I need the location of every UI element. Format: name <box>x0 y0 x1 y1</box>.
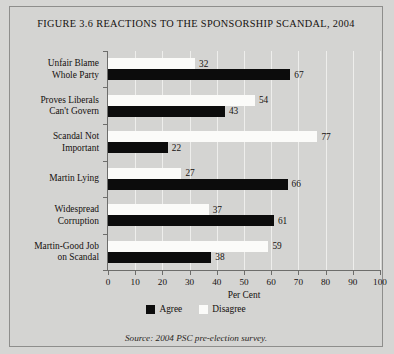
x-axis-tick <box>298 270 299 275</box>
x-axis-tick <box>353 270 354 275</box>
bar-value-label: 38 <box>215 252 224 262</box>
chart-plot-area: Unfair BlameWhole Party3267Proves Libera… <box>108 51 380 270</box>
bar-value-label: 32 <box>199 59 208 69</box>
bar-agree: 66 <box>108 179 288 190</box>
x-axis-tick-label: 60 <box>267 277 276 287</box>
bar-group: Martin Lying2766 <box>108 161 380 197</box>
legend-label: Agree <box>159 304 182 314</box>
bar-value-label: 37 <box>213 205 222 215</box>
bar-value-label: 43 <box>229 106 238 116</box>
bar-value-label: 67 <box>294 70 303 80</box>
category-label: Proves LiberalsCan't Govern <box>40 94 99 117</box>
x-axis-tick-label: 100 <box>373 277 387 287</box>
category-label: Martin-Good Jobon Scandal <box>34 240 99 263</box>
bar-disagree: 37 <box>108 204 209 215</box>
bar-value-label: 59 <box>272 241 281 251</box>
bar-disagree: 32 <box>108 58 195 69</box>
x-axis-tick <box>108 270 109 275</box>
legend-item-disagree: Disagree <box>199 304 245 314</box>
category-label: Martin Lying <box>49 173 99 184</box>
figure-frame: FIGURE 3.6 REACTIONS TO THE SPONSORSHIP … <box>9 6 383 347</box>
legend-label: Disagree <box>212 304 245 314</box>
legend-swatch-agree <box>146 305 155 314</box>
bar-value-label: 61 <box>278 216 287 226</box>
x-axis-tick <box>244 270 245 275</box>
x-axis-tick <box>326 270 327 275</box>
bar-disagree: 27 <box>108 168 181 179</box>
bar-group: WidespreadCorruption3761 <box>108 197 380 233</box>
bar-value-label: 54 <box>259 95 268 105</box>
x-axis-tick-label: 90 <box>348 277 357 287</box>
x-axis-tick <box>271 270 272 275</box>
x-axis-tick-label: 20 <box>158 277 167 287</box>
bar-agree: 38 <box>108 252 211 263</box>
x-axis-tick-label: 50 <box>239 277 248 287</box>
bar-group: Unfair BlameWhole Party3267 <box>108 51 380 87</box>
gridline <box>380 51 381 270</box>
x-axis-title: Per Cent <box>228 290 261 300</box>
x-axis-tick-label: 80 <box>321 277 330 287</box>
bar-agree: 22 <box>108 142 168 153</box>
x-axis-tick-label: 0 <box>106 277 111 287</box>
source-note: Source: 2004 PSC pre-election survey. <box>10 333 382 343</box>
x-axis-tick <box>135 270 136 275</box>
category-label: WidespreadCorruption <box>55 204 99 227</box>
bar-value-label: 22 <box>172 143 181 153</box>
bar-group: Scandal NotImportant7722 <box>108 124 380 160</box>
x-axis-tick-label: 30 <box>185 277 194 287</box>
chart-legend: AgreeDisagree <box>10 304 382 314</box>
bar-agree: 67 <box>108 69 290 80</box>
bar-disagree: 54 <box>108 95 255 106</box>
legend-item-agree: Agree <box>146 304 182 314</box>
page-title: FIGURE 3.6 REACTIONS TO THE SPONSORSHIP … <box>10 18 382 29</box>
x-axis-tick <box>380 270 381 275</box>
bar-disagree: 59 <box>108 241 268 252</box>
x-axis-tick <box>217 270 218 275</box>
bar-agree: 43 <box>108 106 225 117</box>
bar-value-label: 77 <box>321 132 330 142</box>
bar-value-label: 27 <box>185 168 194 178</box>
category-label: Unfair BlameWhole Party <box>48 58 99 81</box>
x-axis-tick-label: 40 <box>212 277 221 287</box>
x-axis-tick-label: 70 <box>294 277 303 287</box>
legend-swatch-disagree <box>199 305 208 314</box>
x-axis-tick <box>190 270 191 275</box>
bar-agree: 61 <box>108 215 274 226</box>
category-label: Scandal NotImportant <box>53 131 99 154</box>
bar-group: Proves LiberalsCan't Govern5443 <box>108 87 380 123</box>
x-axis-tick-label: 10 <box>131 277 140 287</box>
bar-disagree: 77 <box>108 131 317 142</box>
bar-group: Martin-Good Jobon Scandal5938 <box>108 234 380 270</box>
x-axis-tick <box>162 270 163 275</box>
bar-value-label: 66 <box>292 179 301 189</box>
